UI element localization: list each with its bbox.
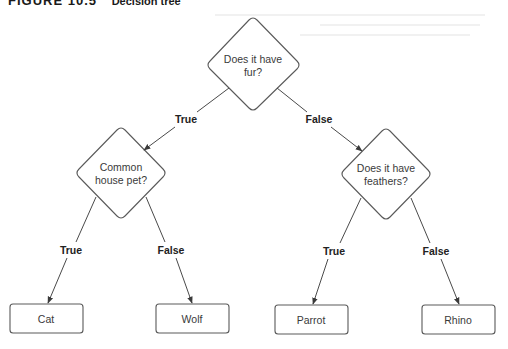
edge-right-false-upper <box>411 198 430 243</box>
edge-left-true-upper <box>76 197 96 242</box>
right-question-line1: Does it have <box>357 162 415 175</box>
left-question: Common house pet? <box>95 161 147 187</box>
root-question-line2: fur? <box>224 66 282 79</box>
edge-label-left-true: True <box>59 244 83 256</box>
leaf-label-wolf: Wolf <box>182 313 203 325</box>
edge-label-root-true: True <box>174 113 198 125</box>
left-question-line2: house pet? <box>95 174 147 187</box>
edge-left-true-lower <box>48 258 67 303</box>
edge-left-false-upper <box>146 197 165 242</box>
left-question-line1: Common <box>95 161 147 174</box>
edge-right-true-upper <box>340 198 361 243</box>
edge-label-left-false: False <box>157 244 186 256</box>
edge-root-false-lower <box>331 127 362 151</box>
edge-left-false-lower <box>176 258 192 303</box>
edge-right-true-lower <box>313 259 328 304</box>
edge-root-true-lower <box>144 127 175 150</box>
right-question: Does it have feathers? <box>357 162 415 188</box>
edge-root-true-upper <box>197 88 229 112</box>
leaf-label-cat: Cat <box>38 313 54 325</box>
leaf-label-parrot: Parrot <box>297 314 326 326</box>
edge-label-right-false: False <box>422 245 451 257</box>
root-question-line1: Does it have <box>224 53 282 66</box>
edge-root-false-upper <box>277 88 307 112</box>
edge-right-false-lower <box>441 259 459 304</box>
leaf-label-rhino: Rhino <box>444 314 471 326</box>
edge-label-right-true: True <box>322 245 346 257</box>
edge-label-root-false: False <box>305 113 334 125</box>
right-question-line2: feathers? <box>357 175 415 188</box>
root-question: Does it have fur? <box>224 53 282 79</box>
